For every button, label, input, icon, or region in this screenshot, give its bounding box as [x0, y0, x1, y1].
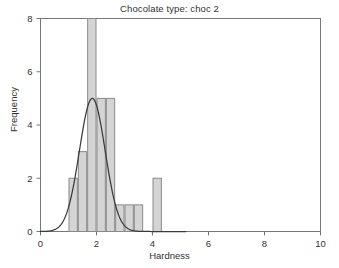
x-tick-label: 4: [150, 238, 155, 249]
x-tick-label: 8: [262, 238, 267, 249]
y-tick-label: 8: [27, 13, 32, 24]
histogram-bar: [97, 98, 105, 231]
y-tick-label: 6: [27, 66, 32, 77]
plot-area: 024681002468: [0, 0, 339, 268]
y-tick-label: 2: [27, 173, 32, 184]
x-tick-label: 0: [38, 238, 43, 249]
histogram-bar: [88, 19, 96, 232]
x-tick-label: 2: [94, 238, 99, 249]
x-tick-label: 10: [315, 238, 326, 249]
histogram-bar: [153, 178, 161, 231]
histogram-bar: [78, 152, 86, 232]
histogram-figure: Chocolate type: choc 2 Frequency Hardnes…: [0, 0, 339, 268]
y-tick-label: 4: [27, 119, 32, 130]
histogram-bar: [134, 205, 142, 232]
x-tick-label: 6: [206, 238, 211, 249]
histogram-bars: [69, 19, 161, 232]
y-tick-label: 0: [27, 226, 32, 237]
